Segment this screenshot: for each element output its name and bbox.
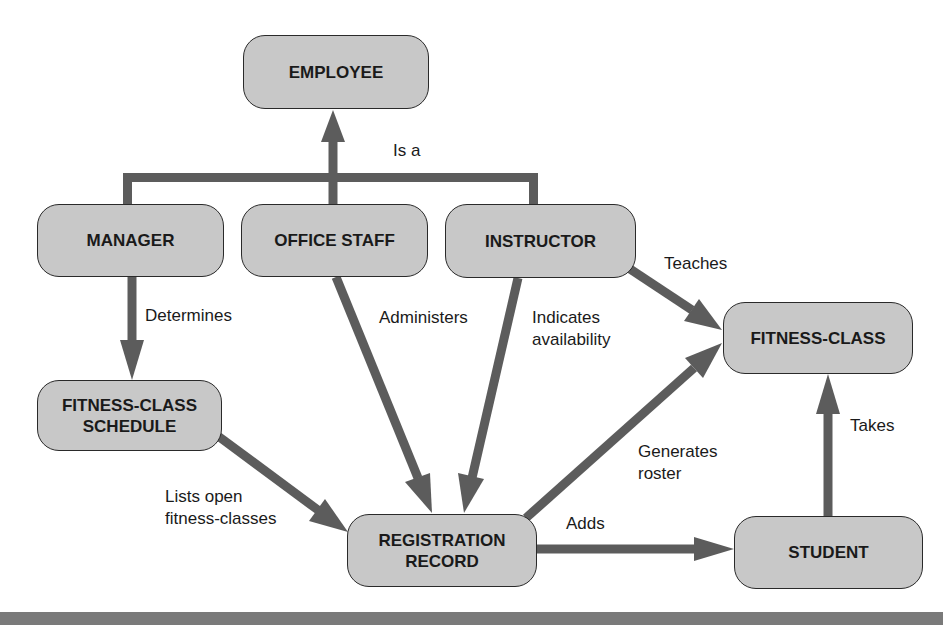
node-student[interactable]: STUDENT	[734, 516, 923, 589]
node-fitness-class[interactable]: FITNESS-CLASS	[723, 302, 913, 374]
node-employee[interactable]: EMPLOYEE	[243, 35, 429, 109]
node-registration-record[interactable]: REGISTRATION RECORD	[347, 514, 537, 587]
label-adds: Adds	[566, 513, 605, 535]
edge-determines	[120, 276, 144, 380]
node-instructor[interactable]: INSTRUCTOR	[445, 204, 636, 278]
edge-takes	[816, 374, 840, 516]
node-manager[interactable]: MANAGER	[37, 204, 224, 277]
edge-generates-roster	[526, 343, 722, 518]
label-generates-roster: Generates roster	[638, 441, 717, 485]
edge-adds	[536, 537, 734, 561]
edge-is-a	[128, 110, 534, 205]
label-indicates-availability: Indicates availability	[532, 307, 610, 351]
node-office-staff[interactable]: OFFICE STAFF	[241, 204, 428, 277]
node-fitness-class-schedule[interactable]: FITNESS-CLASS SCHEDULE	[37, 380, 222, 451]
label-is-a: Is a	[393, 140, 420, 162]
label-lists-open: Lists open fitness-classes	[165, 486, 276, 530]
label-administers: Administers	[379, 307, 468, 329]
label-takes: Takes	[850, 415, 894, 437]
footer-bar	[0, 612, 943, 625]
label-determines: Determines	[145, 305, 232, 327]
concept-diagram: EMPLOYEE MANAGER OFFICE STAFF INSTRUCTOR…	[0, 0, 943, 625]
label-teaches: Teaches	[664, 253, 727, 275]
